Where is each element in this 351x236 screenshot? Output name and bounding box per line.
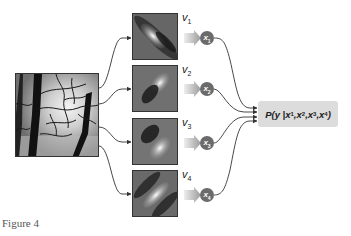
filter-label-v3: v3 [182,116,191,130]
filter-label-v4: v4 [182,168,191,182]
filter-v3 [132,118,178,165]
output-probability-box: P(y | x1, x2, x3, x4) [258,101,338,127]
edge-x4-to-output [214,121,257,195]
edge-x2-to-output [214,89,257,112]
figure-caption: Figure 4 [2,217,39,229]
input-natural-image [15,73,99,157]
response-node-x4: x4 [200,188,214,202]
response-node-x1: x1 [200,31,214,45]
edge-image-to-v2 [99,89,131,104]
filter-v4 [132,170,178,217]
response-node-x3: x3 [200,136,214,150]
response-node-x2: x2 [200,82,214,96]
filter-label-v2: v2 [182,63,191,77]
edge-x1-to-output [214,38,257,108]
filter-label-v1: v1 [182,11,191,25]
filter-v1 [132,13,178,60]
edge-image-to-v1 [99,38,131,88]
filter-v2 [132,65,178,112]
edge-image-to-v4 [99,146,131,194]
edge-image-to-v3 [99,127,131,142]
